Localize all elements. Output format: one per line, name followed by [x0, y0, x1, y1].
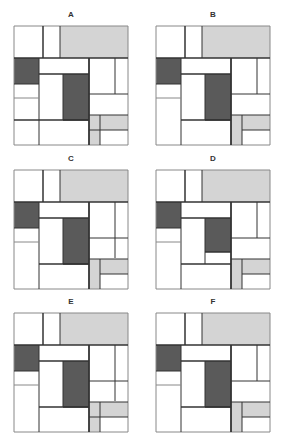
light-gray-band-block — [242, 259, 270, 274]
panel-b: B — [148, 10, 278, 150]
composition — [148, 166, 278, 294]
dark-tall-block — [63, 74, 89, 120]
panel-c: C — [6, 154, 136, 294]
panel-title: B — [148, 10, 278, 19]
light-gray-band-block — [242, 402, 270, 417]
dark-tall-block — [205, 361, 231, 407]
dark-square-block — [14, 345, 39, 371]
light-gray-small-block — [231, 259, 242, 289]
panel-title: E — [6, 297, 136, 306]
light-gray-top-block — [60, 313, 128, 345]
light-gray-top-block — [60, 170, 128, 202]
panel-a: A — [6, 10, 136, 150]
composition — [148, 22, 278, 150]
panel-f: F — [148, 297, 278, 437]
light-gray-band-block — [242, 115, 270, 130]
light-gray-top-block — [60, 26, 128, 58]
dark-tall-block — [205, 74, 231, 120]
dark-square-block — [156, 58, 181, 84]
dark-square-block — [14, 58, 39, 84]
light-gray-top-block — [202, 26, 270, 58]
dark-square-block — [156, 202, 181, 228]
dark-square-block — [14, 202, 39, 228]
panel-title: A — [6, 10, 136, 19]
light-gray-band-block — [100, 402, 128, 417]
panel-e: E — [6, 297, 136, 437]
dark-tall-block — [63, 361, 89, 407]
light-gray-small-block — [89, 259, 100, 289]
light-gray-top-block — [202, 313, 270, 345]
dark-square-block — [156, 345, 181, 371]
composition — [6, 309, 136, 437]
panel-title: D — [148, 154, 278, 163]
panel-title: F — [148, 297, 278, 306]
light-gray-small-block — [231, 115, 242, 145]
composition — [148, 309, 278, 437]
dark-tall-block — [205, 218, 231, 252]
composition — [6, 22, 136, 150]
light-gray-top-block — [202, 170, 270, 202]
panel-d: D — [148, 154, 278, 294]
composition — [6, 166, 136, 294]
panel-title: C — [6, 154, 136, 163]
dark-tall-block — [63, 218, 89, 264]
light-gray-small-block — [231, 402, 242, 432]
light-gray-band-block — [100, 115, 128, 130]
light-gray-band-block — [100, 259, 128, 274]
